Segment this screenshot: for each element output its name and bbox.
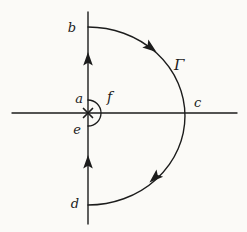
label-gamma: Γ [173, 56, 185, 74]
figure-background [0, 0, 247, 232]
label-b: b [68, 20, 76, 35]
label-e: e [73, 122, 81, 137]
label-c: c [194, 95, 202, 110]
contour-figure: b a e f c d Γ [0, 0, 247, 232]
label-a: a [75, 91, 83, 106]
label-d: d [71, 196, 79, 211]
figure-container: b a e f c d Γ [0, 0, 247, 232]
